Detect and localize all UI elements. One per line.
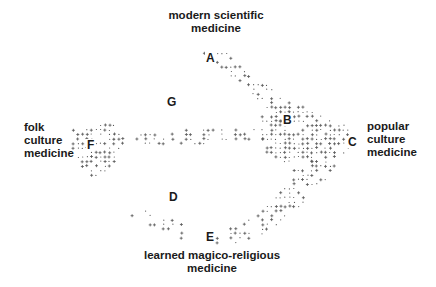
point-B: B <box>282 114 293 126</box>
label-line: culture <box>367 133 417 146</box>
label-line: medicine <box>367 146 417 159</box>
label-line: culture <box>24 134 74 147</box>
label-learned-magico-religious-medicine: learned magico-religious medicine <box>132 249 292 275</box>
label-line: learned magico-religious <box>132 249 292 262</box>
label-line: modern scientific <box>160 9 272 22</box>
label-line: popular <box>367 120 417 133</box>
label-modern-scientific-medicine: modern scientific medicine <box>160 9 272 35</box>
label-line: medicine <box>24 147 74 160</box>
label-line: medicine <box>132 262 292 275</box>
label-folk-culture-medicine: folk culture medicine <box>24 121 74 160</box>
point-A: A <box>205 52 216 64</box>
point-E: E <box>205 231 215 243</box>
point-F: F <box>86 139 95 151</box>
label-popular-culture-medicine: popular culture medicine <box>367 120 417 159</box>
label-line: folk <box>24 121 74 134</box>
point-C: C <box>347 136 358 148</box>
point-D: D <box>168 191 179 203</box>
label-line: medicine <box>160 22 272 35</box>
point-G: G <box>166 96 177 108</box>
